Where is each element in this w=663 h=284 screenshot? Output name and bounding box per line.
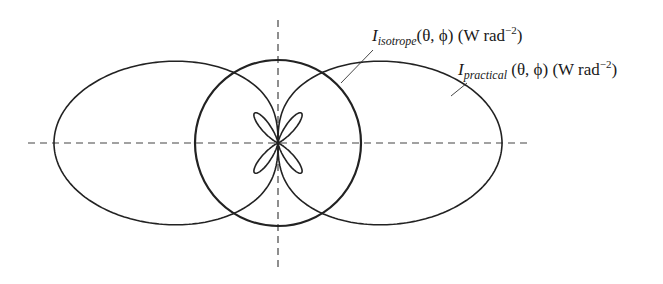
practical-label: Ipractical (θ, ϕ) (W rad−2) bbox=[457, 58, 617, 82]
practical-unit-exponent: −2 bbox=[600, 58, 612, 70]
practical-unit: (W rad bbox=[548, 60, 600, 79]
isotrope-args: (θ, ϕ) bbox=[417, 26, 454, 45]
practical-subscript: practical bbox=[463, 68, 508, 82]
practical-side-lobe-upper-left bbox=[254, 113, 278, 143]
isotrope-subscript: isotrope bbox=[378, 34, 418, 48]
practical-args: (θ, ϕ) bbox=[507, 60, 548, 79]
radiation-pattern-figure: Iisotrope(θ, ϕ) (W rad−2) Ipractical (θ,… bbox=[0, 0, 663, 284]
isotrope-unit-close: ) bbox=[517, 26, 523, 45]
isotrope-label: Iisotrope(θ, ϕ) (W rad−2) bbox=[371, 24, 522, 48]
isotrope-leader-line bbox=[341, 50, 373, 83]
practical-side-lobe-upper-right bbox=[278, 113, 302, 143]
isotrope-unit-exponent: −2 bbox=[505, 24, 517, 36]
practical-unit-close: ) bbox=[612, 60, 618, 79]
isotrope-unit: (W rad bbox=[453, 26, 505, 45]
practical-leader-line bbox=[451, 83, 467, 96]
practical-side-lobe-lower-right bbox=[278, 143, 302, 173]
practical-side-lobe-lower-left bbox=[254, 143, 278, 173]
